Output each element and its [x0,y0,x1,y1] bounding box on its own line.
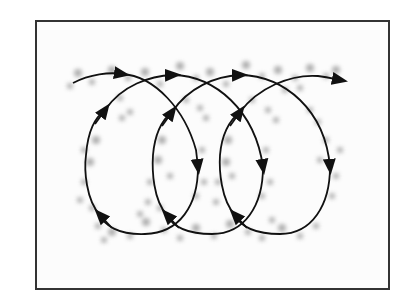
diagram-canvas [0,0,418,304]
trajectory-path [73,73,340,234]
trajectory-diagram [0,0,418,304]
dot-cloud [67,61,343,243]
